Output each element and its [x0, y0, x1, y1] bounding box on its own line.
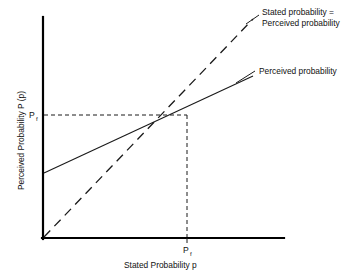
axes-group — [42, 17, 284, 239]
x-axis-title: Stated Probability p — [124, 260, 197, 270]
identity-line — [44, 19, 253, 237]
y-tick-label-sub: f — [36, 116, 38, 122]
figure-container: Stated probability = Perceived probabili… — [0, 0, 357, 278]
x-tick-label-main: P — [183, 245, 189, 255]
identity-line-label-2: Perceived probability — [262, 18, 341, 28]
x-tick-label: P f — [183, 245, 192, 257]
y-tick-label-main: P — [29, 110, 35, 120]
y-axis-title: Perceived Probability P (p) — [16, 91, 26, 190]
identity-label-leader — [246, 15, 259, 24]
perceived-line-label: Perceived probability — [259, 66, 338, 76]
perceived-probability-line — [44, 76, 253, 173]
x-tick-label-sub: f — [190, 251, 192, 257]
identity-line-label-1: Stated probability = — [262, 7, 334, 17]
y-tick-label: P f — [29, 110, 38, 122]
probability-chart: Stated probability = Perceived probabili… — [0, 0, 357, 278]
